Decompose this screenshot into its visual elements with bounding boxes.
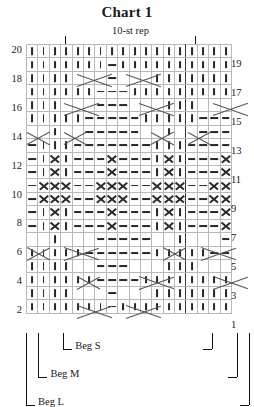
chart-cell xyxy=(61,45,72,58)
cross-symbol xyxy=(107,206,117,218)
chart-cell xyxy=(27,139,38,152)
chart-cell xyxy=(197,98,208,111)
chart-cell xyxy=(220,45,231,58)
knit-symbol xyxy=(213,276,215,284)
chart-cell xyxy=(129,179,140,192)
chart-cell xyxy=(27,71,38,84)
chart-cell xyxy=(83,139,94,152)
chart-row xyxy=(27,71,232,84)
purl-symbol xyxy=(199,117,207,119)
chart-cell xyxy=(197,246,208,259)
chart-cell xyxy=(83,152,94,165)
chart-cell xyxy=(163,45,174,58)
chart-cell xyxy=(220,71,231,84)
knit-symbol xyxy=(202,289,204,297)
knit-symbol xyxy=(168,74,170,82)
knit-symbol xyxy=(54,101,56,109)
chart-cell xyxy=(106,260,117,273)
row-number-right: 15 xyxy=(231,116,253,128)
chart-cell xyxy=(129,260,140,273)
knit-symbol xyxy=(202,249,204,257)
purl-symbol xyxy=(131,279,139,281)
purl-symbol xyxy=(211,225,219,227)
purl-symbol xyxy=(120,91,128,93)
knit-symbol xyxy=(168,47,170,55)
chart-cell xyxy=(197,45,208,58)
purl-symbol xyxy=(188,171,196,173)
purl-symbol xyxy=(97,252,105,254)
purl-symbol xyxy=(97,144,105,146)
knit-symbol xyxy=(179,115,181,123)
knit-symbol xyxy=(179,289,181,297)
chart-cell xyxy=(186,192,197,205)
chart-cell xyxy=(61,300,72,313)
purl-symbol xyxy=(131,131,139,133)
cross-symbol xyxy=(107,166,117,178)
chart-cell xyxy=(220,98,231,111)
knit-symbol xyxy=(88,61,90,69)
chart-cell xyxy=(118,139,129,152)
cross-symbol xyxy=(221,179,231,191)
purl-symbol xyxy=(85,171,93,173)
knit-symbol xyxy=(179,236,181,244)
purl-symbol xyxy=(108,144,116,146)
chart-cell xyxy=(72,58,83,71)
chart-cell xyxy=(118,246,129,259)
chart-cell xyxy=(152,139,163,152)
chart-cell xyxy=(152,192,163,205)
knit-symbol xyxy=(31,249,33,257)
purl-symbol xyxy=(211,212,219,214)
knit-symbol xyxy=(43,209,45,217)
knit-symbol xyxy=(65,168,67,176)
knit-symbol xyxy=(225,88,227,96)
cross-symbol xyxy=(164,166,174,178)
chart-cell xyxy=(95,192,106,205)
purl-symbol xyxy=(120,131,128,133)
row-number-right: 1 xyxy=(231,319,253,331)
chart-cell xyxy=(118,300,129,313)
cross-symbol xyxy=(221,220,231,232)
knit-symbol xyxy=(54,88,56,96)
purl-symbol xyxy=(85,158,93,160)
knit-symbol xyxy=(145,115,147,123)
chart-row xyxy=(27,192,232,205)
knit-symbol xyxy=(122,47,124,55)
chart-cell xyxy=(72,165,83,178)
chart-cell xyxy=(95,139,106,152)
purl-symbol xyxy=(97,279,105,281)
chart-cell xyxy=(163,152,174,165)
knit-symbol xyxy=(191,74,193,82)
chart-cell xyxy=(27,192,38,205)
purl-symbol xyxy=(211,171,219,173)
row-number-right: 5 xyxy=(231,261,253,273)
purl-symbol xyxy=(74,225,82,227)
bracket-vertical xyxy=(26,333,27,405)
chart-cell xyxy=(209,125,220,138)
knit-symbol xyxy=(191,61,193,69)
chart-cell xyxy=(220,286,231,299)
chart-cell xyxy=(61,192,72,205)
cross-symbol xyxy=(175,179,185,191)
chart-cell xyxy=(106,300,117,313)
chart-cell xyxy=(220,152,231,165)
knit-symbol xyxy=(77,115,79,123)
chart-cell xyxy=(186,179,197,192)
chart-cell xyxy=(83,286,94,299)
knit-symbol xyxy=(157,209,159,217)
purl-symbol xyxy=(108,77,116,79)
knit-symbol xyxy=(168,303,170,311)
chart-cell xyxy=(163,71,174,84)
chart-cell xyxy=(27,300,38,313)
knit-symbol xyxy=(213,61,215,69)
knit-symbol xyxy=(31,61,33,69)
purl-symbol xyxy=(28,171,36,173)
chart-cell xyxy=(72,45,83,58)
purl-symbol xyxy=(74,158,82,160)
knit-symbol xyxy=(179,222,181,230)
chart-cell xyxy=(163,219,174,232)
chart-cell xyxy=(140,179,151,192)
bracket-horizontal xyxy=(203,349,212,350)
chart-cell xyxy=(83,112,94,125)
knit-symbol xyxy=(168,88,170,96)
chart-cell xyxy=(197,125,208,138)
